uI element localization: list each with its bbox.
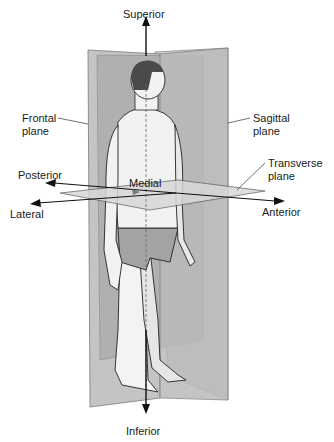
- frontal-leader: [58, 118, 88, 124]
- sagittal-leader: [228, 118, 250, 123]
- frontal-plane-label-line1: Frontal: [22, 112, 56, 125]
- transverse-plane-label-line1: Transverse: [268, 157, 323, 170]
- transverse-leader: [237, 163, 265, 190]
- sagittal-plane-label-line2: plane: [253, 125, 280, 138]
- transverse-plane-label-line2: plane: [268, 170, 295, 183]
- inferior-arrowhead: [142, 404, 150, 414]
- anatomical-planes-diagram: Superior Inferior Frontal plane Sagittal…: [0, 0, 334, 442]
- diagram-graphic: [0, 0, 334, 442]
- anterior-label: Anterior: [262, 206, 301, 219]
- frontal-plane-label-line2: plane: [22, 125, 49, 138]
- lateral-label: Lateral: [10, 208, 44, 221]
- sagittal-plane-label-line1: Sagittal: [253, 112, 290, 125]
- superior-label: Superior: [123, 8, 165, 21]
- posterior-label: Posterior: [18, 169, 62, 182]
- medial-label: Medial: [129, 177, 161, 190]
- anterior-arrowhead: [274, 197, 285, 205]
- inferior-label: Inferior: [126, 425, 160, 438]
- lateral-arrowhead: [30, 199, 41, 207]
